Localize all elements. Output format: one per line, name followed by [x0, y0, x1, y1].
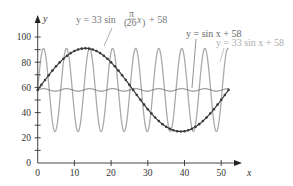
y-axis-label: y	[42, 13, 48, 24]
data-point	[47, 74, 50, 77]
y-tick-label: 0	[26, 158, 31, 168]
data-point	[80, 47, 83, 50]
data-point	[224, 94, 227, 97]
leader-line	[192, 39, 196, 88]
annotation-33sinx-text: y = 33 sin x + 58	[216, 37, 284, 48]
data-point	[66, 54, 69, 57]
data-point	[216, 103, 219, 106]
paren-close: )	[142, 17, 145, 29]
data-point	[62, 58, 65, 61]
x-tick-label: 30	[143, 168, 153, 178]
data-point	[150, 112, 153, 115]
data-point	[202, 120, 205, 123]
annotation-33sinx: y = 33 sin x + 58	[216, 37, 284, 62]
data-point	[165, 125, 168, 128]
data-point	[143, 103, 146, 106]
data-point	[121, 74, 124, 77]
data-point	[73, 50, 76, 53]
data-point	[113, 65, 116, 68]
y-tick-label: 60	[22, 83, 32, 93]
annotation-slow-sine: y = 33 sin ( π 26 x ) + 58	[76, 8, 167, 46]
data-point	[102, 54, 105, 57]
x-tick-label: 20	[106, 168, 116, 178]
y-tick-label: 20	[22, 133, 32, 143]
data-point	[110, 61, 113, 64]
plot-area	[36, 47, 229, 133]
data-point	[187, 129, 190, 132]
y-tick-labels: 0 20 40 60 80 100	[17, 32, 32, 168]
data-point	[191, 128, 194, 131]
data-point	[128, 84, 131, 87]
data-point	[58, 61, 61, 64]
data-point	[180, 130, 183, 133]
data-point	[205, 116, 208, 119]
data-point	[132, 89, 135, 92]
data-point	[55, 65, 58, 68]
data-point	[227, 89, 230, 92]
data-point	[135, 94, 138, 97]
y-tick-label: 80	[22, 58, 32, 68]
y-axis-arrow-icon	[35, 15, 41, 23]
y-tick-label: 40	[22, 108, 32, 118]
x-tick-label: 0	[35, 168, 40, 178]
data-point	[84, 47, 87, 50]
leader-line	[104, 28, 112, 46]
data-point	[88, 47, 91, 50]
data-point	[99, 52, 102, 55]
y-tick-label: 100	[17, 32, 32, 42]
data-point	[139, 99, 142, 102]
data-point	[91, 48, 94, 51]
x-axis-label: x	[246, 167, 252, 178]
data-point	[213, 108, 216, 111]
data-point	[220, 99, 223, 102]
data-point	[194, 125, 197, 128]
data-point	[161, 123, 164, 126]
annotation-frac-den: 26	[127, 17, 137, 28]
data-point	[44, 79, 47, 82]
data-point	[176, 130, 179, 133]
svg-text:y = 33 sin: y = 33 sin	[76, 14, 116, 25]
x-tick-labels: 0 10 20 30 40 50	[35, 168, 226, 178]
data-point	[69, 52, 72, 55]
data-point	[106, 58, 109, 61]
x-tick-label: 50	[216, 168, 226, 178]
x-tick-label: 10	[70, 168, 80, 178]
data-point	[169, 128, 172, 131]
data-point	[95, 50, 98, 53]
data-point	[124, 79, 127, 82]
data-point	[154, 116, 157, 119]
annotation-prefix: y = 33 sin	[76, 14, 116, 25]
data-point	[209, 112, 212, 115]
data-point	[77, 48, 80, 51]
data-point	[183, 130, 186, 133]
x-tick-label: 40	[180, 168, 190, 178]
data-point	[117, 69, 120, 72]
data-point	[51, 69, 54, 72]
annotation-suffix: + 58	[149, 14, 167, 25]
data-point	[198, 123, 201, 126]
data-point	[158, 120, 161, 123]
chart: 0 10 20 30 40 50 0 20 40 60 80 100 x y y…	[0, 0, 293, 186]
data-point	[40, 84, 43, 87]
x-axis-arrow-icon	[234, 160, 242, 166]
ticks	[35, 37, 222, 166]
leader-line	[220, 48, 224, 62]
data-point	[147, 108, 150, 111]
data-point	[172, 129, 175, 132]
